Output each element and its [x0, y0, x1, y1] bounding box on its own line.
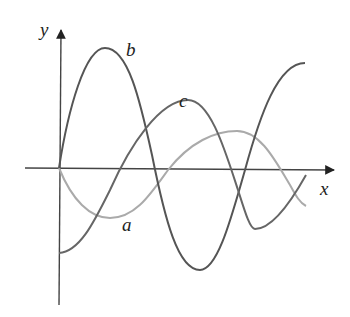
curve-c — [59, 100, 306, 253]
curve-b — [59, 48, 305, 270]
graph-canvas: y x a b c — [0, 0, 350, 317]
curve-a — [59, 131, 306, 218]
curve-a-label: a — [122, 214, 132, 235]
curve-b-label: b — [126, 39, 136, 60]
curve-c-label: c — [179, 90, 188, 111]
x-axis — [25, 168, 334, 170]
y-axis-label: y — [38, 19, 49, 40]
x-axis-label: x — [319, 178, 329, 199]
